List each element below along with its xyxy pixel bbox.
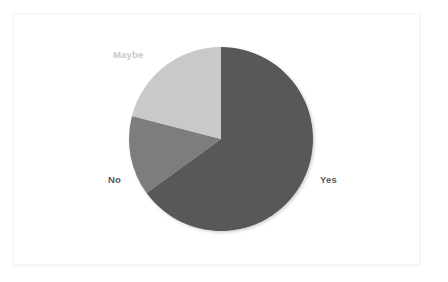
pie-label-yes: Yes [320, 175, 337, 185]
pie-label-no: No [108, 175, 121, 185]
pie-chart-svg [0, 0, 448, 282]
pie-chart-plot-area: Yes No Maybe [0, 0, 448, 282]
screenshot-root: Yes No Maybe [0, 0, 448, 282]
pie-slices-group [129, 47, 313, 231]
pie-label-maybe: Maybe [113, 50, 144, 60]
